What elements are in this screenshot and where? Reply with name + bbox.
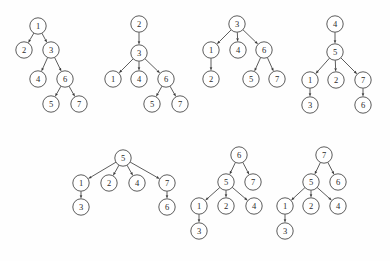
tree-edge xyxy=(69,86,73,94)
tree-edge-arrowhead xyxy=(72,93,75,97)
tree-edge xyxy=(243,30,256,42)
tree-1: 1234657 xyxy=(16,18,87,112)
tree-node: 4 xyxy=(246,198,262,214)
tree-node: 3 xyxy=(131,45,147,61)
tree-edge-arrowhead xyxy=(210,67,213,71)
tree-edge-arrowhead xyxy=(362,93,365,97)
tree-node-label: 1 xyxy=(36,21,40,31)
tree-edge-arrowhead xyxy=(334,68,337,72)
tree-edge xyxy=(121,59,133,71)
tree-node-label: 6 xyxy=(336,177,340,187)
tree-node-label: 5 xyxy=(309,177,313,187)
tree-node: 3 xyxy=(229,16,245,32)
tree-node: 7 xyxy=(355,72,371,88)
tree-node: 2 xyxy=(101,175,117,191)
tree-node-label: 2 xyxy=(137,19,141,29)
tree-node: 3 xyxy=(43,42,59,58)
tree-node-label: 6 xyxy=(361,100,365,110)
tree-7: 7561243 xyxy=(277,147,346,239)
tree-edge xyxy=(43,57,48,68)
tree-5-edges xyxy=(80,162,169,199)
tree-node: 5 xyxy=(327,44,343,60)
tree-node: 4 xyxy=(330,198,346,214)
tree-edge xyxy=(42,33,45,39)
tree-edge-arrowhead xyxy=(310,194,313,198)
tree-node-label: 6 xyxy=(63,74,67,84)
tree-node: 4 xyxy=(230,42,246,58)
tree-node: 2 xyxy=(328,72,344,88)
tree-edge xyxy=(267,57,272,68)
tree-edge-arrowhead xyxy=(138,67,141,71)
tree-6: 6571243 xyxy=(191,147,262,239)
tree-edge xyxy=(208,187,220,198)
tree-edge xyxy=(219,30,231,42)
tree-node: 2 xyxy=(16,42,32,58)
tree-edge-arrowhead xyxy=(331,171,334,175)
tree-edge-arrowhead xyxy=(173,93,176,97)
tree-edge-arrowhead xyxy=(334,40,337,44)
tree-node: 3 xyxy=(191,223,207,239)
tree-node: 4 xyxy=(30,71,46,87)
tree-node-label: 7 xyxy=(165,178,169,188)
tree-node: 1 xyxy=(203,42,219,58)
tree-node: 1 xyxy=(73,175,89,191)
tree-node-label: 1 xyxy=(197,201,201,211)
tree-node: 5 xyxy=(243,71,259,87)
tree-node: 3 xyxy=(73,199,89,215)
tree-node: 2 xyxy=(218,198,234,214)
tree-figure-container: 1234657231465731462574512736512473665712… xyxy=(0,0,390,261)
tree-node-label: 3 xyxy=(308,100,312,110)
tree-node-label: 3 xyxy=(235,19,239,29)
tree-edge-arrowhead xyxy=(44,39,47,43)
tree-node: 6 xyxy=(158,71,174,87)
tree-node: 6 xyxy=(355,97,371,113)
tree-edge-arrowhead xyxy=(28,39,31,43)
tree-node: 7 xyxy=(172,96,188,112)
tree-edge-arrowhead xyxy=(230,171,233,175)
tree-node: 1 xyxy=(191,198,207,214)
tree-node: 5 xyxy=(115,150,131,166)
tree-edge-arrowhead xyxy=(284,219,287,223)
tree-edge xyxy=(294,188,305,198)
tree-edge-arrowhead xyxy=(113,172,116,176)
tree-edge-arrowhead xyxy=(156,176,160,179)
tree-node-label: 1 xyxy=(308,75,312,85)
tree-node-label: 2 xyxy=(107,178,111,188)
tree-node: 7 xyxy=(245,174,261,190)
tree-node-label: 1 xyxy=(79,178,83,188)
tree-edge xyxy=(115,165,119,173)
tree-node: 4 xyxy=(327,16,343,32)
tree-edge xyxy=(91,162,116,177)
tree-node-label: 5 xyxy=(49,99,53,109)
tree-edge xyxy=(231,162,235,171)
tree-edge xyxy=(55,57,60,68)
tree-edge-arrowhead xyxy=(315,171,318,175)
tree-node: 3 xyxy=(302,97,318,113)
tree-node: 7 xyxy=(316,147,332,163)
tree-edge-arrowhead xyxy=(309,93,312,97)
tree-node-label: 7 xyxy=(77,99,81,109)
tree-edge xyxy=(243,162,248,171)
tree-node: 5 xyxy=(144,96,160,112)
tree-node: 6 xyxy=(159,199,175,215)
tree-node: 2 xyxy=(131,16,147,32)
tree-edge xyxy=(328,162,333,171)
tree-node-label: 2 xyxy=(209,74,213,84)
tree-node: 6 xyxy=(57,71,73,87)
tree-node: 6 xyxy=(231,147,247,163)
tree-node: 6 xyxy=(256,42,272,58)
tree-node-label: 3 xyxy=(137,48,141,58)
tree-edge-arrowhead xyxy=(271,68,274,72)
tree-node: 7 xyxy=(269,71,285,87)
tree-edge-arrowhead xyxy=(88,176,92,179)
tree-node: 3 xyxy=(277,223,293,239)
tree-edge xyxy=(341,58,355,72)
tree-node: 5 xyxy=(218,174,234,190)
tree-edge-arrowhead xyxy=(198,219,201,223)
tree-2: 2314657 xyxy=(105,16,188,112)
tree-node-label: 7 xyxy=(178,99,182,109)
tree-node-label: 2 xyxy=(334,75,338,85)
tree-edge-arrowhead xyxy=(156,93,159,97)
tree-node: 1 xyxy=(30,18,46,34)
tree-node: 2 xyxy=(303,198,319,214)
